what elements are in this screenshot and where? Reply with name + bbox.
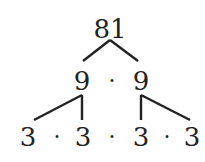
multiply-dot: · — [164, 124, 171, 149]
root-node: 81 — [93, 14, 126, 44]
level2-node-2: 3 — [75, 122, 92, 152]
multiply-dot: · — [54, 124, 61, 149]
level1-node-1: 9 — [74, 66, 91, 96]
branch-9a-left — [34, 95, 82, 120]
level2-node-4: 3 — [184, 122, 201, 152]
multiply-dot: · — [109, 124, 116, 149]
factor-tree-diagram: 81 9 · 9 3 · 3 · 3 · 3 — [0, 0, 205, 162]
multiply-dot: · — [109, 68, 116, 93]
branch-9b-right — [141, 95, 190, 120]
level1-node-2: 9 — [133, 66, 150, 96]
level2-node-3: 3 — [133, 122, 150, 152]
factor-tree-canvas: 81 9 · 9 3 · 3 · 3 · 3 — [0, 0, 205, 162]
level2-node-1: 3 — [20, 122, 37, 152]
